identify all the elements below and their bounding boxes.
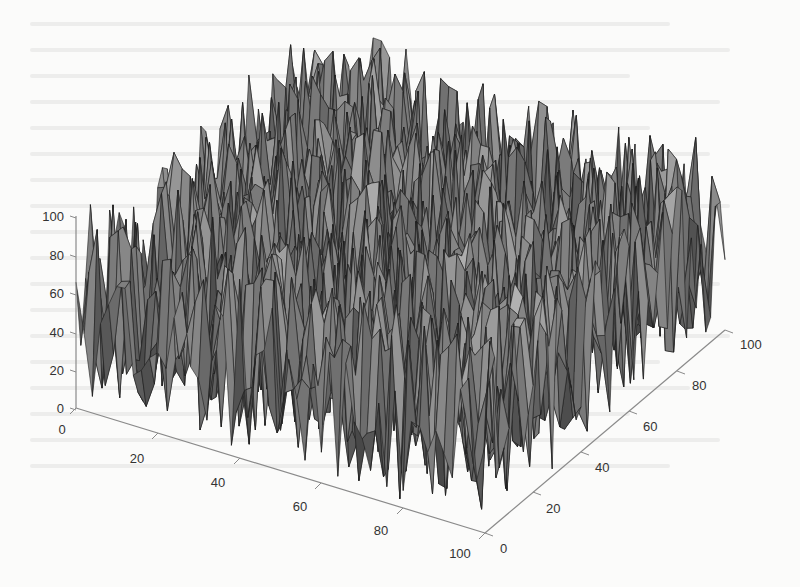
z-tick-label: 40 <box>50 325 64 340</box>
x-tick-label: 60 <box>293 499 307 514</box>
z-tick-label: 0 <box>57 401 64 416</box>
y-tick-label: 0 <box>500 541 507 556</box>
x-tick-label: 80 <box>374 523 388 538</box>
y-tick-label: 100 <box>740 337 762 352</box>
y-tick-label: 60 <box>643 419 657 434</box>
z-tick-label: 80 <box>50 248 64 263</box>
x-tick-label: 40 <box>211 475 225 490</box>
y-tick-label: 80 <box>692 378 706 393</box>
y-tick-label: 20 <box>546 501 560 516</box>
figure-page: 100 80 60 40 20 0 0 20 40 60 80 100 <box>0 0 800 587</box>
surface-mesh <box>76 38 725 509</box>
surface-plot: 100 80 60 40 20 0 0 20 40 60 80 100 <box>0 0 800 587</box>
x-tick-label: 0 <box>58 422 65 437</box>
z-tick-label: 20 <box>50 363 64 378</box>
y-tick-label: 40 <box>595 460 609 475</box>
x-tick-label: 20 <box>130 451 144 466</box>
z-axis-ticks: 100 80 60 40 20 0 <box>42 209 76 416</box>
z-tick-label: 60 <box>50 286 64 301</box>
x-tick-label: 100 <box>449 546 471 561</box>
z-tick-label: 100 <box>42 209 64 224</box>
